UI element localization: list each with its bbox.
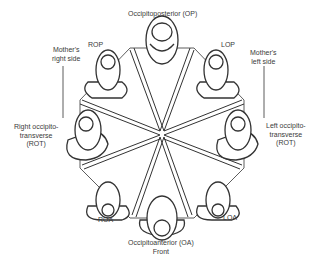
label-mother-right: Mother's right side [52, 46, 80, 63]
label-lot: Left occipito- transverse (ROT) [266, 122, 306, 148]
fetus-lot [217, 110, 258, 160]
fetus-rot [67, 110, 108, 160]
label-lop: LOP [221, 41, 235, 50]
fetus-roa [87, 182, 130, 220]
label-mother-left: Mother's left side [250, 49, 277, 66]
label-loa: LOA [223, 214, 237, 223]
label-rop: ROP [88, 41, 103, 50]
label-oa: Occipitoanterior (OA) Front [128, 239, 194, 256]
label-roa: ROA [98, 216, 113, 225]
label-op: Occipitoposterior (OP) [128, 10, 197, 19]
label-rot: Right occipito- transverse (ROT) [14, 123, 58, 149]
fetus-op [146, 16, 178, 64]
